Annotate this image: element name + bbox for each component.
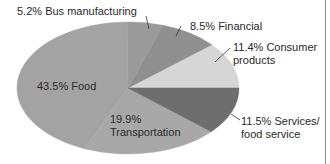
label-services-line1: 11.5% Services/ — [241, 115, 320, 128]
label-transportation-line2: Transportation — [110, 126, 181, 139]
label-consumer-line1: 11.4% Consumer — [233, 41, 317, 54]
leader-services — [231, 114, 240, 120]
label-consumer-line2: products — [233, 54, 275, 67]
label-financial: 8.5% Financial — [190, 20, 262, 33]
label-transportation-line1: 19.9% — [110, 113, 141, 126]
label-services-line2: food service — [241, 128, 300, 141]
right-border-line — [325, 0, 326, 164]
label-bus-manufacturing: 5.2% Bus manufacturing — [17, 5, 137, 18]
label-food: 43.5% Food — [37, 80, 96, 93]
